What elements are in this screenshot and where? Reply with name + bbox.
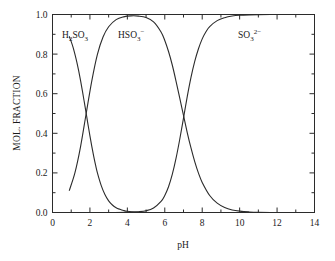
x-tick-label: 14 <box>310 218 320 228</box>
x-tick-label: 6 <box>162 218 167 228</box>
x-tick-label: 0 <box>50 218 55 228</box>
y-tick-label: 0.0 <box>36 208 48 218</box>
y-axis-title: MOL. FRACTION <box>12 75 22 150</box>
so3-label: SO32− <box>238 28 261 42</box>
hso3-label: HSO3− <box>118 28 145 42</box>
y-tick-label: 1.0 <box>36 10 48 20</box>
y-tick-label: 0.6 <box>36 89 48 99</box>
x-tick-label: 10 <box>235 218 245 228</box>
curve-hso3 <box>69 16 314 213</box>
x-tick-label: 8 <box>200 218 205 228</box>
x-axis-tick-labels: 02468101214 <box>50 218 319 228</box>
h2so3-label: H2SO3 <box>62 30 89 43</box>
x-tick-label: 12 <box>272 218 282 228</box>
y-tick-label: 0.4 <box>36 129 48 139</box>
x-tick-label: 2 <box>88 218 93 228</box>
y-tick-label: 0.2 <box>36 168 48 178</box>
chart-canvas: 02468101214 0.00.20.40.60.81.0 pH MOL. F… <box>0 0 335 261</box>
series-annotations: H2SO3HSO3−SO32− <box>62 28 261 42</box>
y-axis-tick-labels: 0.00.20.40.60.81.0 <box>36 10 48 218</box>
speciation-chart-figure: 02468101214 0.00.20.40.60.81.0 pH MOL. F… <box>0 0 335 261</box>
x-axis-title: pH <box>177 240 189 250</box>
data-series-group <box>69 14 314 212</box>
y-tick-label: 0.8 <box>36 50 48 60</box>
x-tick-label: 4 <box>125 218 130 228</box>
